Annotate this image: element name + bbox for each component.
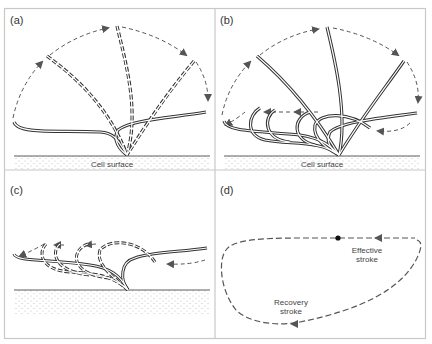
cell-surface-label-a: Cell surface <box>91 160 134 169</box>
panel-c: (c) <box>10 184 210 314</box>
effective-arrowhead <box>374 234 382 242</box>
effective-stroke-label-2: stroke <box>356 255 378 264</box>
recovery-stroke-label-2: stroke <box>280 307 302 316</box>
beat-cycle-loop <box>221 238 420 324</box>
cilium-positions-b <box>224 27 417 155</box>
start-point <box>335 235 340 240</box>
panel-d-label: (d) <box>220 184 233 196</box>
panel-borders <box>4 8 426 339</box>
panel-d: (d) Effective stroke Recovery stroke <box>220 184 421 328</box>
effective-stroke-label-1: Effective <box>352 246 383 255</box>
panel-c-label: (c) <box>10 184 23 196</box>
panel-b-label: (b) <box>220 14 233 26</box>
cell-surface-c <box>14 290 210 314</box>
panel-a-label: (a) <box>10 14 23 26</box>
recovery-stroke-label-1: Recovery <box>274 298 308 307</box>
cilium-positions-a <box>14 26 206 155</box>
panel-b: (b) Cell surface <box>220 14 420 169</box>
cilia-beat-diagram: (a) Cell surface (b) <box>0 0 432 344</box>
panel-a: (a) Cell surface <box>10 14 210 169</box>
cell-surface-label-b: Cell surface <box>301 160 344 169</box>
recovery-arrowhead <box>290 320 298 328</box>
